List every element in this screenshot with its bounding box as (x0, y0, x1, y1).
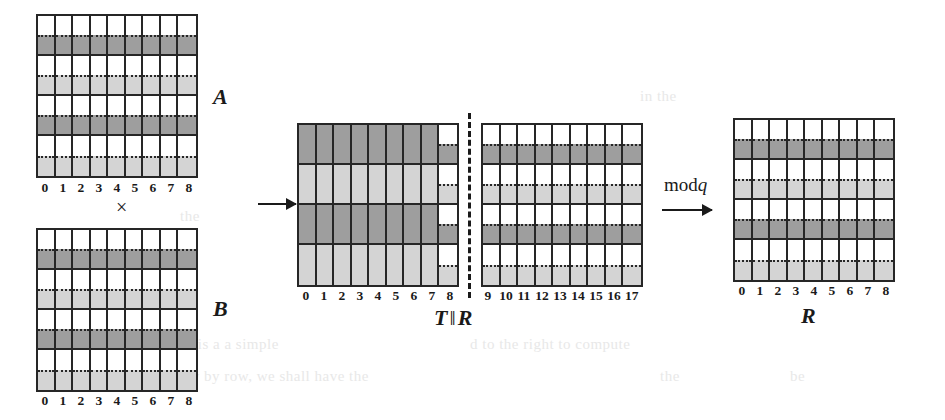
matrix-b-axis-tick: 2 (72, 393, 90, 409)
matrix-t-cell (404, 125, 420, 165)
matrix-r-middle-cell (606, 165, 622, 205)
matrix-r-middle-cell-upper (588, 165, 604, 184)
matrix-r-result-cell-upper (735, 240, 751, 260)
matrix-t-cell-fill (404, 125, 420, 163)
matrix-t-cell (352, 125, 368, 165)
matrix-r-result-cell (840, 120, 856, 160)
matrix-a-cell (56, 136, 72, 176)
matrix-r-result-cell (788, 200, 804, 240)
matrix-a-cell-lower (56, 75, 72, 94)
matrix-a-cell-lower (91, 35, 107, 54)
matrix-r-result-cell-upper (875, 240, 893, 260)
matrix-t-cell-upper (439, 165, 457, 184)
matrix-b-cell-upper (161, 310, 177, 329)
matrix-b-cell (143, 350, 159, 390)
matrix-r-middle-cell-lower (553, 224, 569, 243)
matrix-r-middle-cell (553, 125, 569, 165)
matrix-r-middle-cell-lower (623, 144, 641, 163)
matrix-a-axis-tick: 5 (126, 180, 144, 196)
matrix-a-column (178, 16, 196, 176)
matrix-b-cell-upper (38, 350, 54, 370)
matrix-b-cell-upper (126, 350, 142, 370)
matrix-b-column (56, 230, 74, 390)
matrix-r-result-cell (788, 160, 804, 200)
matrix-r-middle-column (606, 125, 624, 285)
matrix-r-middle-cell-upper (553, 205, 569, 224)
matrix-r-middle-cell (588, 245, 604, 285)
matrix-r-result-cell (805, 240, 821, 280)
matrix-r-result-cell (875, 240, 893, 280)
matrix-r-result-axis-tick: 3 (787, 283, 805, 299)
matrix-a-cell (56, 96, 72, 136)
matrix-b-cell (161, 350, 177, 390)
matrix-r-middle-cell-upper (536, 205, 552, 224)
matrix-b-cell (126, 270, 142, 310)
matrix-r-result-cell-upper (770, 240, 786, 260)
matrix-a-cell-lower (143, 35, 159, 54)
matrix-b-cell-lower (73, 370, 89, 390)
matrix-a-cell-lower (38, 115, 54, 134)
matrix-r-middle-cell-upper (588, 205, 604, 224)
matrix-a-cell-lower (143, 115, 159, 134)
matrix-b-label: B (213, 296, 228, 322)
matrix-t-cell-fill (317, 165, 333, 203)
matrix-r-result-cell-upper (770, 160, 786, 179)
matrix-r-result-cell-lower (805, 179, 821, 198)
matrix-b-cell (73, 270, 89, 310)
matrix-r-middle-cell-upper (571, 245, 587, 265)
matrix-b-cell-lower (161, 249, 177, 268)
matrix-r-middle-cell (518, 125, 534, 165)
matrix-r-middle-cell-upper (588, 245, 604, 265)
matrix-r-result-cell-upper (735, 120, 751, 139)
matrix-b-cell (38, 230, 54, 270)
matrix-r-result-cell-lower (858, 219, 874, 238)
matrix-r-result-cell-upper (735, 160, 751, 179)
matrix-r-result-cell-upper (788, 160, 804, 179)
matrix-r-result-cell-lower (753, 219, 769, 238)
matrix-b-column (178, 230, 196, 390)
matrix-r-middle-cell-lower (553, 144, 569, 163)
matrix-t-cell (439, 245, 457, 285)
matrix-t-cell (317, 245, 333, 285)
matrix-t-cell-fill (387, 125, 403, 163)
matrix-b-cell-lower (56, 289, 72, 308)
matrix-r-middle-axis-tick: 17 (623, 288, 641, 304)
matrix-t-axis-tick: 8 (441, 288, 459, 304)
matrix-b-cell (91, 350, 107, 390)
matrix-a-cell-lower (126, 35, 142, 54)
matrix-t-cell (439, 125, 457, 165)
matrix-b-cell-upper (108, 270, 124, 289)
matrix-t-cell (369, 125, 385, 165)
matrix-r-middle-axis-tick: 16 (605, 288, 623, 304)
matrix-b-cell (161, 230, 177, 270)
matrix-b-cell-upper (38, 270, 54, 289)
matrix-r-middle-cell-lower (536, 265, 552, 285)
matrix-a-cell-upper (143, 56, 159, 75)
matrix-a-cell-upper (143, 16, 159, 35)
matrix-r-result-cell-upper (823, 120, 839, 139)
matrix-t-cell-fill (334, 245, 350, 285)
matrix-r-result-column (788, 120, 806, 280)
matrix-b-cell-lower (178, 329, 196, 348)
matrix-a-cell-lower (161, 156, 177, 176)
matrix-r-result-cell-lower (770, 179, 786, 198)
matrix-r-middle-cell (518, 165, 534, 205)
mod-keyword: mod (664, 174, 698, 195)
matrix-a-cell-upper (38, 136, 54, 156)
matrix-a-cell (38, 16, 54, 56)
matrix-r-middle-column (623, 125, 641, 285)
matrix-r-result-axis-tick: 5 (823, 283, 841, 299)
matrix-r-middle-cell (623, 245, 641, 285)
matrix-r-middle-cell-lower (606, 184, 622, 203)
matrix-r-middle-cell-lower (501, 265, 517, 285)
matrix-r-middle-cell-upper (623, 205, 641, 224)
matrix-a-cell (161, 16, 177, 56)
matrix-r-middle-cell (501, 125, 517, 165)
matrix-a-cell-upper (108, 16, 124, 35)
matrix-r-result-cell (840, 200, 856, 240)
matrix-r-result-column (753, 120, 771, 280)
matrix-t-cell-fill (317, 205, 333, 243)
matrix-a-cell-upper (161, 136, 177, 156)
multiplication-sign: × (116, 196, 127, 219)
matrix-a-axis-tick: 8 (180, 180, 198, 196)
